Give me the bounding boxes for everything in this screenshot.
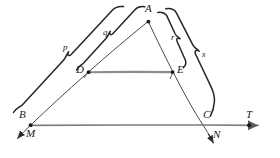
- point-label-m: M: [26, 128, 35, 139]
- brace-label-p: p: [63, 43, 68, 52]
- point-label-n: N: [213, 129, 220, 140]
- brace-p: [14, 6, 124, 112]
- point-dots: [29, 20, 251, 128]
- dot-a: [147, 20, 151, 24]
- brace-label-x: x: [202, 51, 206, 59]
- brace-label-q: q: [103, 28, 108, 37]
- point-label-a: A: [145, 3, 152, 14]
- line-mn: [17, 22, 148, 139]
- brace-x: [166, 9, 215, 117]
- brace-label-r: r: [171, 33, 175, 42]
- dot-d: [87, 70, 91, 74]
- point-label-e: E: [177, 64, 184, 75]
- dot-e: [171, 70, 175, 74]
- point-label-b: B: [19, 109, 26, 120]
- point-label-d: D: [76, 64, 84, 75]
- dot-t: [247, 123, 251, 127]
- geometry-figure: [0, 0, 280, 158]
- point-label-c: C: [203, 109, 210, 120]
- point-label-t: T: [246, 109, 252, 120]
